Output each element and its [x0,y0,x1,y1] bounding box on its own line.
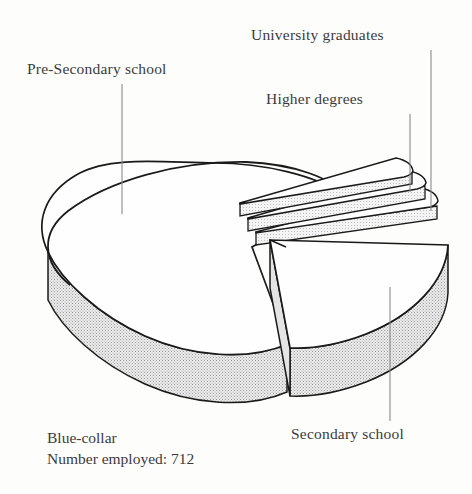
pie-chart-figure: University graduates Higher degrees Pre-… [0,0,472,494]
caption-group-label: Blue-collar [47,428,194,449]
slice-label-presecondary-school: Pre-Secondary school [27,59,167,79]
slice-secondary[interactable] [270,240,448,396]
slice-label-secondary-school: Secondary school [291,424,404,444]
figure-caption: Blue-collar Number employed: 712 [47,428,194,469]
caption-employed-count: Number employed: 712 [47,449,194,470]
slice-label-university-graduates: University graduates [251,25,384,45]
slice-label-higher-degrees: Higher degrees [266,89,363,109]
